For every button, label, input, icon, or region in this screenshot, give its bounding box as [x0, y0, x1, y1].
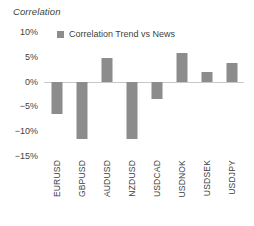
bar-slot [194, 32, 219, 156]
bar-slot [219, 32, 244, 156]
y-axis-tick-label: 5% [25, 52, 38, 62]
bar[interactable] [151, 82, 162, 99]
x-axis-tick-label: NZDUSD [127, 160, 137, 197]
x-axis-tick-label: USDSEK [202, 160, 212, 196]
bar-slot [169, 32, 194, 156]
x-axis-tick: USDSEK [194, 158, 219, 224]
x-axis-tick: NZDUSD [119, 158, 144, 224]
bar[interactable] [201, 72, 212, 82]
x-axis-tick: USDCAD [144, 158, 169, 224]
bar[interactable] [126, 82, 137, 139]
x-axis-tick: GBPUSD [69, 158, 94, 224]
x-axis-tick-label: GBPUSD [77, 160, 87, 197]
x-axis-tick: USDNOK [169, 158, 194, 224]
bar-slot [94, 32, 119, 156]
bar-series [44, 32, 244, 156]
y-axis: 10%5%0%−5%−10%−15% [0, 0, 44, 226]
x-axis-tick-label: USDCAD [152, 160, 162, 197]
bar[interactable] [51, 82, 62, 114]
bar-slot [119, 32, 144, 156]
bar[interactable] [76, 82, 87, 139]
plot-area [44, 32, 244, 156]
bar[interactable] [176, 53, 187, 82]
bar[interactable] [101, 58, 112, 82]
x-axis-tick-label: USDNOK [177, 160, 187, 198]
y-axis-tick-label: −5% [20, 101, 38, 111]
x-axis-tick: EURUSD [44, 158, 69, 224]
x-axis: EURUSDGBPUSDAUDUSDNZDUSDUSDCADUSDNOKUSDS… [44, 158, 244, 224]
y-axis-tick-label: 0% [25, 77, 38, 87]
x-axis-tick-label: EURUSD [52, 160, 62, 197]
y-axis-tick-label: −10% [15, 126, 38, 136]
bar-slot [44, 32, 69, 156]
bar-slot [69, 32, 94, 156]
x-axis-tick-label: AUDUSD [102, 160, 112, 197]
y-axis-tick-label: 10% [20, 27, 38, 37]
x-axis-tick: USDJPY [219, 158, 244, 224]
bar[interactable] [226, 63, 237, 81]
y-axis-tick-label: −15% [15, 151, 38, 161]
correlation-bar-chart: Correlation Correlation Trend vs News 10… [0, 0, 254, 226]
bar-slot [144, 32, 169, 156]
x-axis-tick-label: USDJPY [227, 160, 237, 195]
x-axis-tick: AUDUSD [94, 158, 119, 224]
